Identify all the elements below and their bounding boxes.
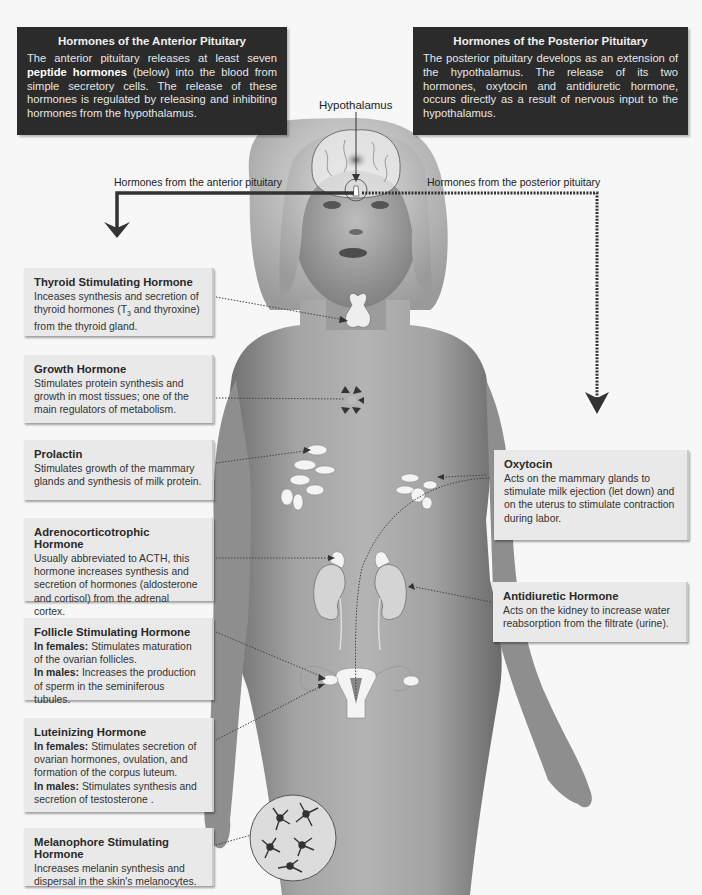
card-thyroid-stimulating-hormone: Thyroid Stimulating Hormone Inceases syn… bbox=[24, 268, 214, 336]
thyroid-icon bbox=[346, 293, 371, 327]
ovary-left-icon bbox=[322, 675, 338, 685]
anterior-pituitary-panel: Hormones of the Anterior Pituitary The a… bbox=[17, 27, 287, 135]
card-antidiuretic-hormone: Antidiuretic Hormone Acts on the kidney … bbox=[493, 582, 688, 642]
card-follicle-stimulating-hormone: Follicle Stimulating Hormone In females:… bbox=[24, 618, 214, 700]
card-growth-hormone: Growth Hormone Stimulates protein synthe… bbox=[24, 355, 214, 423]
panel-title: Hormones of the Anterior Pituitary bbox=[27, 35, 277, 47]
card-oxytocin: Oxytocin Acts on the mammary glands to s… bbox=[494, 450, 689, 540]
posterior-pathway-label: Hormones from the posterior pituitary bbox=[427, 176, 600, 188]
panel-title: Hormones of the Posterior Pituitary bbox=[423, 35, 678, 47]
card-prolactin: Prolactin Stimulates growth of the mamma… bbox=[24, 440, 214, 500]
ovary-right-icon bbox=[403, 676, 419, 686]
hypothalamus-label: Hypothalamus bbox=[319, 99, 393, 111]
anterior-pathway-label: Hormones from the anterior pituitary bbox=[114, 176, 282, 188]
card-melanophore-stimulating-hormone: Melanophore Stimulating Hormone Increase… bbox=[24, 828, 214, 886]
card-adrenocorticotrophic-hormone: Adrenocorticotrophic Hormone Usually abb… bbox=[24, 518, 214, 601]
melanocyte-magnified-icon bbox=[250, 795, 336, 881]
lips bbox=[339, 248, 367, 258]
card-luteinizing-hormone: Luteinizing Hormone In females: Stimulat… bbox=[24, 718, 214, 812]
panel-body: The anterior pituitary releases at least… bbox=[27, 52, 277, 121]
panel-body: The posterior pituitary develops as an e… bbox=[423, 52, 678, 121]
posterior-pituitary-panel: Hormones of the Posterior Pituitary The … bbox=[413, 27, 688, 135]
